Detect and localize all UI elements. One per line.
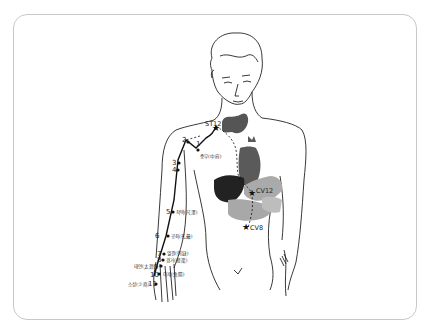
left-eyebrow (222, 77, 230, 78)
name-7: 열결(列缺) (167, 250, 189, 257)
neck-left (214, 98, 222, 120)
mouth (233, 101, 243, 102)
name-8: 경거(經渠) (166, 257, 188, 264)
name-1: 중부(中府) (200, 153, 222, 160)
point-2 (186, 140, 189, 143)
navel (234, 268, 242, 274)
point-1 (196, 148, 199, 151)
nose (235, 84, 239, 96)
point-5 (171, 210, 174, 213)
num-1: 1 (196, 140, 200, 148)
head-outline (211, 33, 263, 104)
name-6: 공최(孔最) (171, 233, 193, 240)
point-4 (176, 168, 179, 171)
star-cv12-icon: ★ (248, 188, 256, 198)
neck-right (252, 92, 262, 118)
right-eye (243, 81, 251, 82)
hairline (220, 55, 258, 62)
name-9: 태연(太淵) (134, 263, 156, 270)
name-10: 어제(魚際) (163, 271, 185, 278)
head (211, 33, 263, 104)
body-illustration: ★ ★ ★ ST12 CV12 CV8 1 2 3 4 5 6 7 8 9 10… (0, 0, 430, 333)
point-7 (162, 252, 165, 255)
left-eye (224, 82, 232, 83)
num-4: 4 (172, 166, 177, 174)
point-3 (177, 161, 180, 164)
right-fingers (280, 254, 288, 266)
label-cv12: CV12 (256, 187, 273, 195)
num-6: 6 (155, 232, 160, 240)
point-9 (159, 264, 162, 267)
label-cv8: CV8 (250, 224, 263, 232)
num-2: 2 (182, 136, 186, 144)
num-5: 5 (166, 208, 170, 216)
point-8 (161, 258, 164, 261)
right-eyebrow (242, 75, 250, 76)
num-10: 10 (150, 271, 159, 279)
thyroid (222, 113, 248, 133)
point-6 (166, 234, 169, 237)
name-11: 소상(少商) (128, 281, 150, 288)
name-5: 척택(尺澤) (176, 209, 198, 216)
star-cv8-icon: ★ (242, 222, 250, 232)
label-st12: ST12 (205, 120, 221, 128)
